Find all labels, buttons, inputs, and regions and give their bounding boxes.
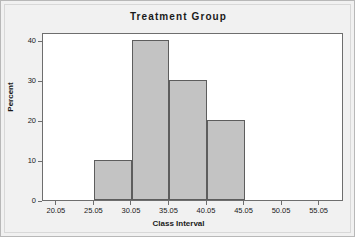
histogram-bar (132, 40, 170, 200)
chart-title: Treatment Group (1, 11, 355, 22)
x-tick-label: 50.05 (272, 206, 291, 215)
y-tick-label: 10 (28, 156, 36, 165)
x-tick-label: 55.05 (309, 206, 328, 215)
histogram-bar (169, 80, 207, 200)
x-tick-mark (93, 201, 94, 205)
x-tick-label: 40.05 (197, 206, 216, 215)
x-axis: 20.0525.0530.0535.0540.0545.0550.0555.05 (1, 201, 355, 221)
x-tick-label: 45.05 (234, 206, 253, 215)
histogram-bar (94, 160, 132, 200)
x-tick-mark (243, 201, 244, 205)
y-tick-label: 40 (28, 36, 36, 45)
x-tick-label: 25.05 (84, 206, 103, 215)
x-tick-mark (281, 201, 282, 205)
x-axis-title: Class Interval (1, 219, 355, 228)
y-tick-label: 20 (28, 116, 36, 125)
histogram-bar (207, 120, 245, 200)
x-tick-mark (130, 201, 131, 205)
histogram-figure: Treatment Group Percent 010203040 20.052… (0, 0, 355, 237)
x-tick-mark (168, 201, 169, 205)
x-tick-mark (318, 201, 319, 205)
x-tick-label: 35.05 (159, 206, 178, 215)
plot-area (42, 33, 343, 201)
y-tick-label: 30 (28, 76, 36, 85)
bars-layer (43, 34, 342, 200)
x-tick-mark (206, 201, 207, 205)
x-tick-label: 30.05 (122, 206, 141, 215)
x-tick-mark (55, 201, 56, 205)
x-tick-label: 20.05 (46, 206, 65, 215)
